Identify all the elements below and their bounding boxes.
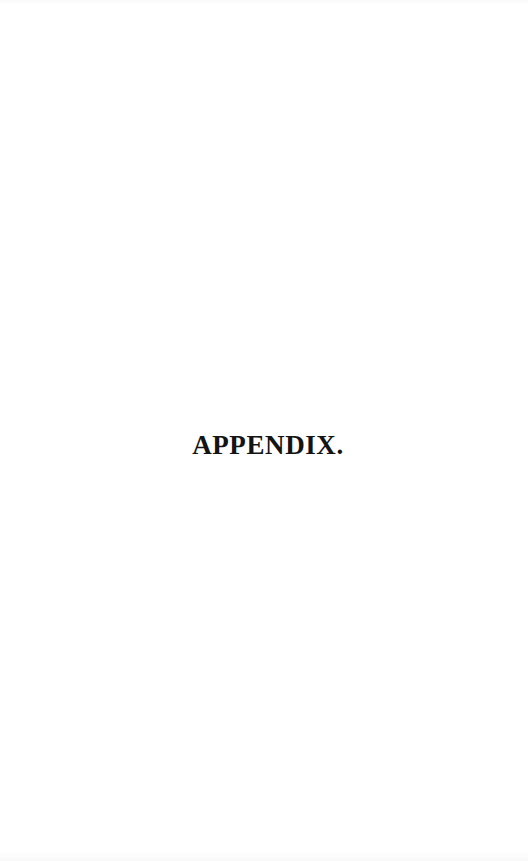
scan-edge-artifact-top — [0, 0, 528, 4]
scanned-page: APPENDIX. — [0, 0, 528, 861]
page-title: APPENDIX. — [192, 430, 344, 460]
scan-edge-artifact-bottom — [0, 851, 528, 861]
title-block: APPENDIX. — [0, 412, 528, 478]
